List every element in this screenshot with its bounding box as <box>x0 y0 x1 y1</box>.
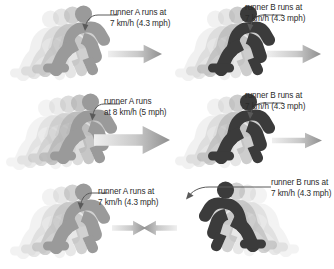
runner-a-label: runner A runs at 8 km/h (5 mph) <box>104 97 166 118</box>
scenario-row-1: runner A runs at 7 km/h (4.3 mph) <box>0 0 334 90</box>
runner-a-motion-arrow <box>112 220 146 236</box>
runner-b-label: runner B runs at 7 km/h (4.3 mph) <box>245 3 305 24</box>
runner-b-motion-arrow <box>267 44 321 64</box>
runner-b-body <box>194 178 266 258</box>
scenario-row-2: runner A runs at 8 km/h (5 mph) <box>0 88 334 178</box>
runner-a-motion-arrow <box>94 126 170 154</box>
panel-row3-runner-a: runner A runs at 7 km/h (4.3 mph) <box>0 176 167 266</box>
runner-a-label: runner A runs at 7 km/h (4.3 mph) <box>98 187 158 208</box>
scenario-row-3: runner A runs at 7 km/h (4.3 mph) <box>0 176 334 266</box>
runner-b-motion-arrow <box>143 220 177 236</box>
runner-a-label: runner A runs at 7 km/h (4.3 mph) <box>110 8 170 29</box>
panel-row1-runner-b: runner B runs at 7 km/h (4.3 mph) <box>167 0 334 90</box>
panel-row2-runner-b: runner B runs at 7 km/h (4.3 mph) <box>167 88 334 178</box>
relative-motion-diagram: runner A runs at 7 km/h (4.3 mph) <box>0 0 334 269</box>
panel-row1-runner-a: runner A runs at 7 km/h (4.3 mph) <box>0 0 167 90</box>
runner-a-motion-arrow <box>108 44 162 64</box>
runner-b-label: runner B runs at 7 km/h (4.3 mph) <box>245 91 305 112</box>
runner-b-label: runner B runs at 7 km/h (4.3 mph) <box>271 178 331 199</box>
panel-row2-runner-a: runner A runs at 8 km/h (5 mph) <box>0 88 167 178</box>
runner-b-motion-arrow <box>272 132 322 149</box>
panel-row3-runner-b: runner B runs at 7 km/h (4.3 mph) <box>167 176 334 266</box>
runner-a-body <box>43 2 115 82</box>
